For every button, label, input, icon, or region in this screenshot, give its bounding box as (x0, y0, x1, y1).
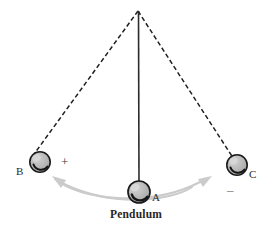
figure-caption: Pendulum (110, 209, 162, 221)
bob-c (227, 155, 247, 175)
positive-sign: + (61, 155, 68, 168)
bob-a (128, 181, 150, 203)
bob-b (30, 152, 50, 172)
string-to-b (35, 11, 139, 154)
string-to-c (138, 11, 233, 157)
string-to-a (139, 11, 140, 183)
negative-sign: – (227, 183, 234, 196)
label-bob-c: C (249, 169, 256, 180)
swing-arrowhead-right (198, 176, 212, 187)
label-bob-b: B (16, 166, 23, 177)
pendulum-figure: B A C Pendulum + – (0, 0, 273, 237)
label-bob-a: A (152, 192, 160, 203)
pendulum-diagram-svg (0, 0, 273, 237)
